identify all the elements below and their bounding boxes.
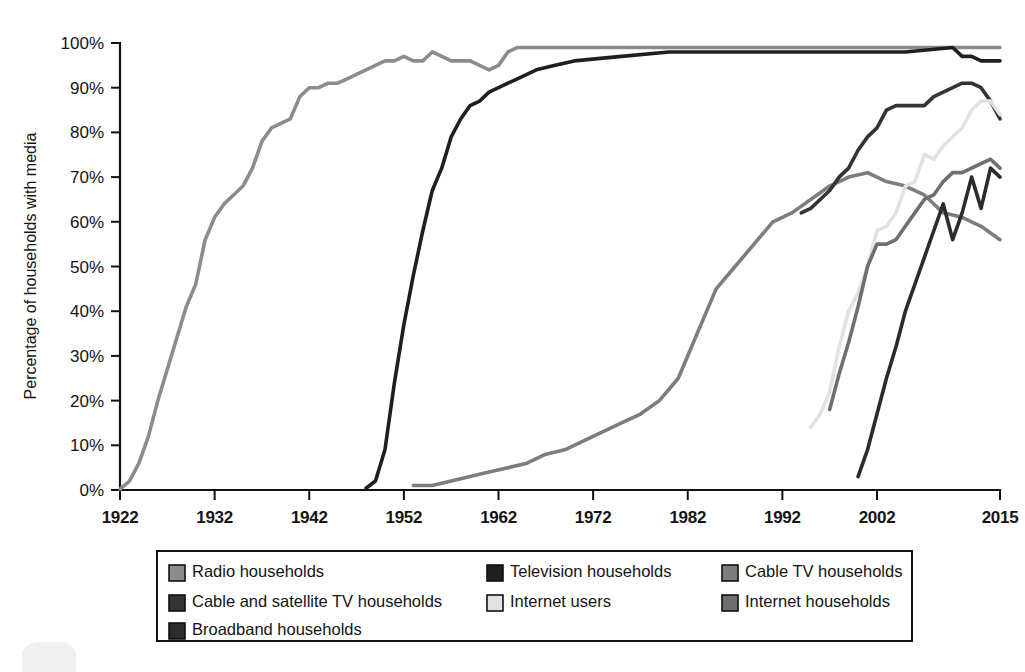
x-tick-label: 1992 — [764, 508, 801, 527]
media-adoption-line-chart: Percentage of households with media 0%10… — [0, 0, 1025, 672]
y-tick-label: 20% — [70, 392, 104, 411]
legend-swatch — [722, 595, 738, 611]
y-tick-label: 10% — [70, 436, 104, 455]
legend-label: Television households — [510, 562, 671, 580]
x-tick-label: 1932 — [196, 508, 233, 527]
legend-swatch — [169, 595, 185, 611]
legend-label: Radio households — [192, 562, 324, 580]
y-tick-label: 100% — [61, 34, 104, 53]
y-axis-title-label: Percentage of households with media — [22, 132, 39, 399]
chart-figure: Percentage of households with media 0%10… — [0, 0, 1025, 672]
y-tick-label: 40% — [70, 302, 104, 321]
chart-legend: Radio householdsTelevision householdsCab… — [157, 551, 912, 641]
y-tick-label: 70% — [70, 168, 104, 187]
legend-label: Cable TV households — [745, 562, 902, 580]
legend-label: Cable and satellite TV households — [192, 592, 442, 610]
legend-label: Broadband households — [192, 620, 362, 638]
y-tick-label: 90% — [70, 79, 104, 98]
legend-swatch — [487, 595, 503, 611]
x-tick-label: 1962 — [480, 508, 517, 527]
y-tick-label: 30% — [70, 347, 104, 366]
x-tick-label: 1922 — [102, 508, 139, 527]
legend-swatch — [722, 565, 738, 581]
y-axis-title: Percentage of households with media — [22, 132, 39, 399]
y-tick-label: 80% — [70, 123, 104, 142]
x-tick-label: 1942 — [291, 508, 328, 527]
y-tick-label: 0% — [79, 481, 104, 500]
legend-swatch — [169, 565, 185, 581]
y-tick-label: 50% — [70, 258, 104, 277]
y-tick-label: 60% — [70, 213, 104, 232]
legend-swatch — [487, 565, 503, 581]
legend-swatch — [169, 623, 185, 639]
scan-artifact-mark — [22, 642, 76, 672]
x-tick-label: 2002 — [859, 508, 896, 527]
x-tick-label: 1972 — [575, 508, 612, 527]
x-tick-label: 2015 — [982, 508, 1019, 527]
legend-label: Internet users — [510, 592, 611, 610]
x-tick-label: 1982 — [669, 508, 706, 527]
legend-label: Internet households — [745, 592, 890, 610]
x-tick-label: 1952 — [386, 508, 423, 527]
